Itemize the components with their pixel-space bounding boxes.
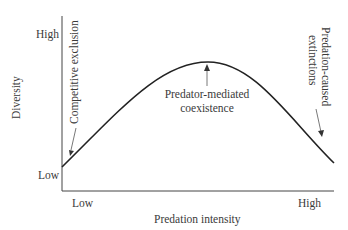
x-tick-high: High — [298, 198, 321, 210]
label-coexistence-line1: Predator-mediated — [157, 89, 257, 101]
y-axis-label: Diversity — [11, 76, 23, 119]
x-tick-low: Low — [72, 198, 93, 210]
label-extinctions-line1: Predation-caused — [320, 27, 332, 106]
label-competitive-exclusion: Competitive exclusion — [69, 20, 81, 124]
y-tick-low: Low — [38, 170, 59, 182]
y-tick-high: High — [36, 29, 59, 41]
arrow-competitive-exclusion — [71, 128, 76, 150]
label-extinctions: Predation-caused extinctions — [307, 27, 331, 106]
label-extinctions-line2: extinctions — [307, 27, 319, 106]
x-axis-label: Predation intensity — [154, 214, 241, 226]
label-coexistence-line2: coexistence — [157, 103, 257, 115]
diversity-curve — [62, 62, 334, 167]
label-coexistence: Predator-mediated coexistence — [157, 89, 257, 114]
arrow-extinctions — [316, 109, 321, 132]
